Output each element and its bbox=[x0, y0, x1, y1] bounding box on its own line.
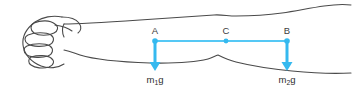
force-label-m2g-base: m bbox=[279, 74, 287, 85]
force-diagram-overlay: A C B m1g m2g bbox=[147, 25, 296, 86]
forearm-force-diagram: A C B m1g m2g bbox=[0, 0, 353, 93]
force-label-m1g: m1g bbox=[147, 74, 164, 86]
point-label-c: C bbox=[223, 25, 230, 36]
point-marker-b bbox=[284, 38, 290, 44]
force-label-m2g-tail: g bbox=[290, 74, 295, 85]
point-marker-a bbox=[152, 38, 158, 44]
point-label-b: B bbox=[284, 25, 290, 36]
point-marker-c bbox=[224, 39, 229, 44]
force-label-m1g-base: m bbox=[147, 74, 155, 85]
force-label-m2g: m2g bbox=[279, 74, 296, 86]
forearm-outline bbox=[63, 4, 352, 73]
point-label-a: A bbox=[152, 25, 159, 36]
force-arrowhead-a bbox=[150, 62, 161, 71]
diagram-canvas: A C B m1g m2g bbox=[0, 0, 353, 93]
force-label-m1g-tail: g bbox=[158, 74, 163, 85]
